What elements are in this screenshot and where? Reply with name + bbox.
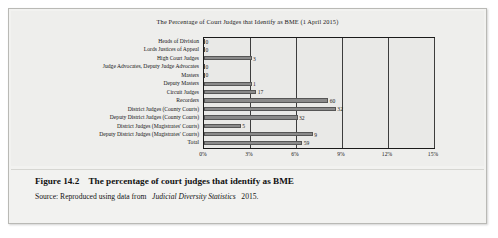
gridline: [434, 38, 435, 148]
x-tick-label: 0%: [199, 151, 206, 157]
bar-row: 3: [204, 55, 434, 63]
bar-row: 60: [204, 97, 434, 105]
figure-container: The Percentage of Court Judges that Iden…: [8, 8, 487, 224]
category-label: Deputy Masters: [11, 79, 201, 87]
bar-value-label: 0: [206, 39, 209, 45]
plot-area: 003001176032325959: [203, 37, 435, 149]
chart-area: The Percentage of Court Judges that Iden…: [11, 11, 484, 166]
bar: [204, 98, 328, 102]
bar-row: 9: [204, 131, 434, 139]
bar: [204, 124, 241, 128]
category-label: District Judges (County Courts): [11, 105, 201, 113]
x-tick-label: 9%: [337, 151, 344, 157]
source-prefix: Source: Reproduced using data from: [35, 192, 146, 201]
bar-value-label: 9: [314, 132, 317, 138]
x-tick-label: 15%: [428, 151, 438, 157]
bar-value-label: 1: [253, 81, 256, 87]
source-year: 2015.: [241, 192, 258, 201]
category-label: District Judges (Magistrates' Courts): [11, 122, 201, 130]
bar-value-label: 0: [206, 64, 209, 70]
bar-row: 5: [204, 123, 434, 131]
bar-row: 32: [204, 106, 434, 114]
source-publication: Judicial Diversity Statistics: [152, 192, 236, 201]
bar-row: 0: [204, 72, 434, 80]
bar-row: 0: [204, 46, 434, 54]
figure-caption-text: The percentage of court judges that iden…: [88, 176, 294, 186]
x-tick-label: 3%: [245, 151, 252, 157]
figure-caption: Figure 14.2 The percentage of court judg…: [35, 176, 465, 186]
x-axis-ticks: 0%3%6%9%12%15%: [203, 150, 435, 162]
bar-value-label: 0: [206, 47, 209, 53]
bar: [204, 132, 313, 136]
bar-row: 17: [204, 89, 434, 97]
chart-title: The Percentage of Court Judges that Iden…: [11, 18, 484, 25]
bar-value-label: 32: [337, 106, 343, 112]
category-axis-labels: Heads of DivisionLords Justices of Appea…: [11, 37, 201, 149]
x-tick-label: 12%: [382, 151, 392, 157]
bar-row: 0: [204, 38, 434, 46]
bar-value-label: 3: [253, 56, 256, 62]
bar-row: 1: [204, 80, 434, 88]
category-label: Recorders: [11, 96, 201, 104]
x-tick-label: 6%: [291, 151, 298, 157]
bar-row: 32: [204, 114, 434, 122]
caption-block: Figure 14.2 The percentage of court judg…: [35, 176, 465, 201]
bar-row: 0: [204, 63, 434, 71]
bar: [204, 90, 256, 94]
bar: [204, 82, 252, 86]
category-label: Heads of Division: [11, 37, 201, 45]
category-label: Total: [11, 138, 201, 146]
figure-number: Figure 14.2: [35, 176, 79, 186]
category-label: Masters: [11, 71, 201, 79]
divider: [11, 169, 484, 170]
category-label: Deputy District Judges (Magistrates' Cou…: [11, 130, 201, 138]
bar: [204, 115, 298, 119]
bar-rows: 003001176032325959: [204, 38, 434, 148]
category-label: High Court Judges: [11, 54, 201, 62]
category-label: Circuit Judges: [11, 88, 201, 96]
bar: [204, 56, 252, 60]
bar: [204, 107, 336, 111]
bar-value-label: 5: [242, 123, 245, 129]
category-label: Judge Advocates, Deputy Judge Advocates: [11, 62, 201, 70]
bar-value-label: 60: [330, 98, 336, 104]
bar-value-label: 32: [299, 115, 305, 121]
bar: [204, 141, 302, 145]
bar-value-label: 17: [258, 89, 264, 95]
bar-value-label: 59: [304, 140, 310, 146]
bar-value-label: 0: [206, 72, 209, 78]
figure-source: Source: Reproduced using data from Judic…: [35, 192, 465, 201]
bar-row: 59: [204, 139, 434, 147]
category-label: Deputy District Judges (County Courts): [11, 113, 201, 121]
category-label: Lords Justices of Appeal: [11, 45, 201, 53]
